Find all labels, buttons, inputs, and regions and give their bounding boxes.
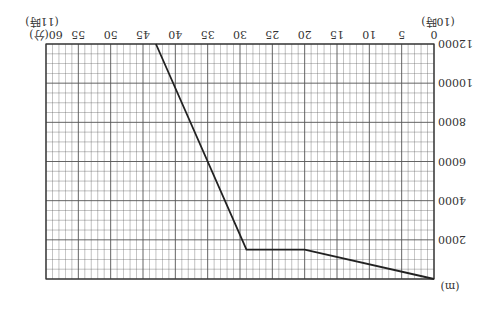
x-tick-label: 30 (233, 28, 247, 41)
x-tick-label: 15 (330, 28, 344, 41)
x-tick-label: 40 (168, 28, 182, 41)
y-axis-label: (m) (440, 280, 459, 293)
y-tick-label: 2000 (438, 233, 466, 246)
x-tick-label: 25 (265, 28, 279, 41)
x-end-label: (11時) (25, 15, 59, 28)
x-tick-label: 20 (298, 28, 312, 41)
x-tick-label: 55 (71, 28, 85, 41)
y-tick-label: 4000 (438, 194, 466, 207)
x-tick-label: 35 (201, 28, 215, 41)
x-tick-label: 0 (431, 28, 438, 41)
y-tick-label: 10000 (438, 76, 473, 89)
x-start-label: (10時) (421, 15, 455, 28)
x-tick-label: 45 (136, 28, 150, 41)
x-tick-label: 50 (104, 28, 118, 41)
x-tick-label: 5 (398, 28, 405, 41)
x-tick-label: 60(分) (29, 28, 63, 41)
y-tick-label: 6000 (438, 155, 466, 168)
line-chart: 051015202530354045505560(分)(10時)(11時)200… (0, 0, 486, 318)
y-tick-label: 12000 (438, 37, 473, 50)
y-tick-label: 8000 (438, 115, 466, 128)
x-tick-label: 10 (362, 28, 376, 41)
chart-rotated: 051015202530354045505560(分)(10時)(11時)200… (0, 0, 486, 318)
